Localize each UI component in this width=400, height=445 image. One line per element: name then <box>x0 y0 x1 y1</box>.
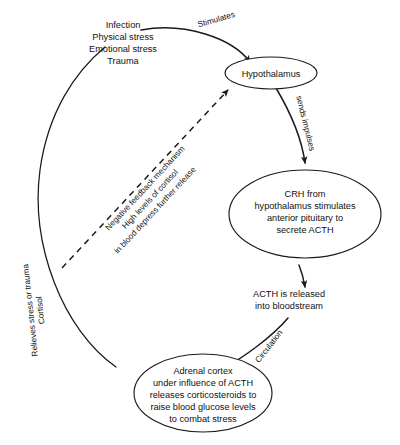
crh-label-line3: anterior pituitary to <box>267 213 343 223</box>
stressor-infection: Infection <box>106 20 141 30</box>
edge-label-cortisol: Cortisol <box>35 296 47 325</box>
edge-negative-feedback <box>62 90 228 268</box>
hypothalamus-label: Hypothalamus <box>242 69 301 79</box>
edge-cortisol-relieves <box>38 47 116 367</box>
acth-released-line2: into bloodstream <box>255 301 323 311</box>
edge-stimulates <box>141 28 250 62</box>
adrenal-label-line4: raise blood glucose levels <box>150 402 256 412</box>
edge-label-stimulates: Stimulates <box>197 10 236 29</box>
stressor-emotional-stress: Emotional stress <box>89 44 157 54</box>
crh-label-line2: hypothalamus stimulates <box>254 201 356 211</box>
stressor-trauma: Trauma <box>107 56 139 66</box>
stressor-physical-stress: Physical stress <box>92 32 154 42</box>
adrenal-label-line5: to combat stress <box>169 414 237 424</box>
edge-label-sends-impulses: sends impulses <box>294 95 316 152</box>
adrenal-label-line1: Adrenal cortex <box>173 366 233 376</box>
acth-released-line1: ACTH is released <box>253 289 325 299</box>
edge-crh-to-acth <box>299 265 305 287</box>
stress-response-diagram: Hypothalamus CRH from hypothalamus stimu… <box>0 0 400 445</box>
adrenal-label-line3: releases corticosteroids to <box>150 390 257 400</box>
crh-label-line4: secrete ACTH <box>276 225 333 235</box>
diagram-canvas: Hypothalamus CRH from hypothalamus stimu… <box>0 0 400 445</box>
crh-label-line1: CRH from <box>285 189 326 199</box>
adrenal-label-line2: under influence of ACTH <box>153 378 253 388</box>
